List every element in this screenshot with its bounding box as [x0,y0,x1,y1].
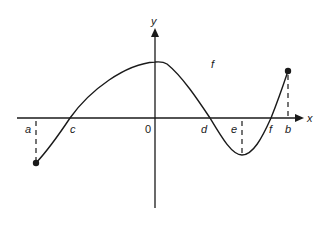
label-a: a [25,123,31,135]
function-curve [36,62,288,163]
label-d: d [201,123,208,135]
label-e: e [231,123,237,135]
label-origin: 0 [145,123,151,135]
x-axis-arrow-icon [295,114,304,122]
label-function-f: f [211,58,215,70]
label-c: c [70,123,76,135]
y-axis-arrow-icon [151,28,159,37]
function-graph: a c 0 d e f b x y f [0,0,325,225]
label-x: x [306,112,313,124]
label-b: b [285,123,291,135]
label-f-root: f [269,123,273,135]
endpoint-a-dot [33,160,39,166]
label-y: y [150,15,158,27]
endpoint-b-dot [285,68,291,74]
